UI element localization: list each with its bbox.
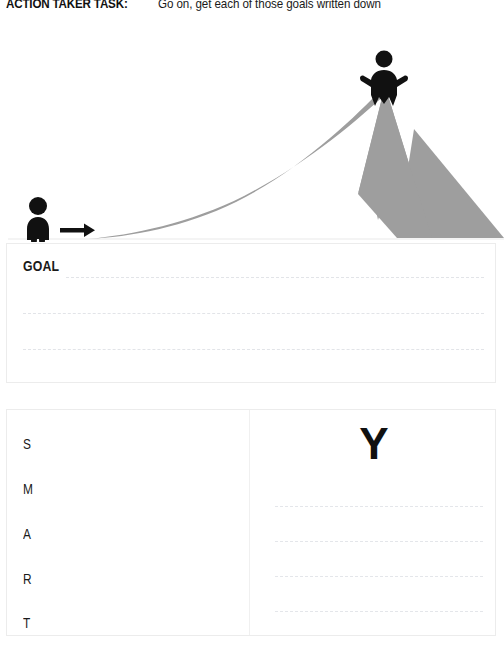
task-header-instruction: Go on, get each of those goals written d…: [158, 0, 381, 11]
smart-panel: S M A R T: [7, 410, 250, 635]
goal-label: GOAL: [23, 257, 59, 274]
task-header-label: ACTION TAKER TASK:: [6, 0, 128, 11]
arrow-shaft: [60, 228, 86, 233]
smart-why-card: S M A R T Y: [6, 409, 496, 636]
why-write-line[interactable]: [275, 576, 483, 577]
why-panel: Y: [251, 410, 496, 635]
summit-figure-head: [376, 51, 393, 68]
goal-write-line[interactable]: [66, 277, 484, 278]
goal-write-line[interactable]: [23, 313, 484, 314]
summit-figure-body: [360, 70, 408, 106]
smart-letter-t: T: [23, 615, 30, 631]
goal-card: GOAL: [6, 243, 496, 383]
why-write-line[interactable]: [275, 611, 483, 612]
smart-letter-r: R: [23, 571, 32, 587]
smart-letter-s: S: [23, 436, 31, 452]
person-celebrating-on-summit: [360, 51, 408, 107]
arrow-head: [84, 224, 95, 238]
mountain-climb-illustration: [0, 24, 504, 242]
task-header: ACTION TAKER TASK: Go on, get each of th…: [6, 0, 498, 14]
why-write-line[interactable]: [275, 506, 483, 507]
person-standing-at-base: [27, 197, 49, 242]
base-figure-head: [29, 197, 47, 215]
smart-letter-a: A: [23, 526, 31, 542]
why-write-line[interactable]: [275, 541, 483, 542]
right-arrow: [60, 224, 95, 238]
why-heading: Y: [251, 422, 496, 466]
base-figure-body: [27, 217, 49, 242]
goal-write-line[interactable]: [23, 349, 484, 350]
smart-letter-m: M: [23, 481, 33, 497]
